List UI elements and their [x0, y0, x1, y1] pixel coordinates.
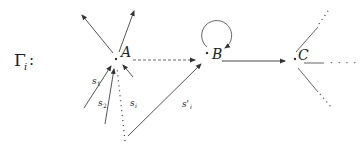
node-b: B	[206, 46, 222, 62]
svg-text::: :	[29, 51, 34, 69]
node-c-dot	[294, 58, 296, 60]
label-si: s i	[130, 98, 137, 109]
node-b-label: B	[211, 46, 222, 62]
svg-text:i: i	[24, 61, 27, 72]
edge-s2	[105, 69, 114, 124]
node-b-dot	[206, 52, 208, 54]
edge-c-up-dotted	[319, 8, 330, 24]
edge-c-down	[298, 68, 318, 92]
edge-si-dotted	[117, 68, 125, 141]
edge-b-self-loop	[202, 21, 232, 48]
node-c: C	[294, 47, 309, 63]
edge-c-down-dotted	[320, 94, 331, 107]
svg-text:i: i	[190, 103, 192, 110]
edge-a-out-left	[82, 15, 113, 53]
node-c-label: C	[298, 47, 309, 63]
graph-diagram: Γ i : A s 1 s 2 s i s'	[0, 0, 362, 149]
edge-a-in-right	[123, 65, 133, 77]
label-s-prime-i: s' i	[182, 99, 192, 110]
label-s2: s 2	[98, 98, 107, 109]
edge-c-right-ellipsis: · · · ·	[330, 58, 357, 68]
svg-text:1: 1	[97, 80, 101, 87]
node-a-dot	[115, 58, 117, 60]
svg-text:i: i	[135, 102, 137, 109]
graph-label: Γ i :	[14, 50, 34, 72]
svg-text:2: 2	[103, 102, 107, 109]
edge-s-prime-i	[128, 64, 201, 136]
diagram-svg: Γ i : A s 1 s 2 s i s'	[0, 0, 362, 149]
label-s1: s 1	[92, 76, 101, 87]
svg-text:s': s'	[182, 99, 189, 109]
node-a: A	[115, 44, 131, 60]
